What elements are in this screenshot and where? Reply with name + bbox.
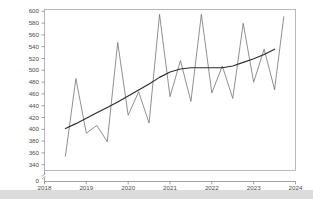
y-tick-label: 360 <box>29 149 40 156</box>
y-tick-label: 520 <box>29 55 40 62</box>
series-trend-line <box>65 49 274 128</box>
y-tick-label: 440 <box>29 102 40 109</box>
line-chart: 600 580 560 540 520 500 480 460 440 420 … <box>0 0 313 199</box>
chart-container: 600 580 560 540 520 500 480 460 440 420 … <box>0 0 313 199</box>
y-axis-break-icon <box>42 171 46 182</box>
y-tick-label: 580 <box>29 19 40 26</box>
y-tick-label: 400 <box>29 125 40 132</box>
series-final-rise-line <box>275 17 284 90</box>
y-tick-label: 600 <box>29 7 40 14</box>
y-tick-label: 480 <box>29 78 40 85</box>
y-tick-label: 420 <box>29 114 40 121</box>
y-tick-label: 560 <box>29 31 40 38</box>
y-axis-ticks <box>42 11 45 164</box>
bottom-band <box>0 190 313 199</box>
y-tick-label: 460 <box>29 90 40 97</box>
y-tick-label: 340 <box>29 161 40 168</box>
y-axis-zero-label: 0 <box>36 177 40 184</box>
y-tick-label: 380 <box>29 137 40 144</box>
y-axis-labels: 600 580 560 540 520 500 480 460 440 420 … <box>29 7 40 183</box>
y-tick-label: 540 <box>29 43 40 50</box>
y-tick-label: 500 <box>29 66 40 73</box>
series-quarterly-line <box>65 14 274 156</box>
plot-frame <box>45 10 296 171</box>
